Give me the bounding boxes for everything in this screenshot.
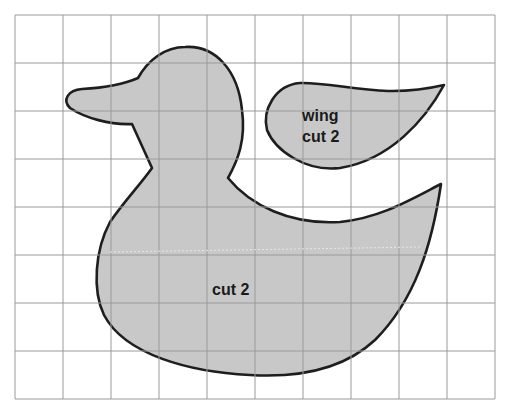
wing-piece [266, 83, 444, 169]
grid [15, 15, 495, 399]
duck-pattern-diagram: cut 2 wing cut 2 [0, 0, 508, 417]
wing-label-line1: wing [301, 107, 338, 124]
wing-label-line2: cut 2 [302, 128, 339, 145]
body-label: cut 2 [212, 281, 249, 298]
